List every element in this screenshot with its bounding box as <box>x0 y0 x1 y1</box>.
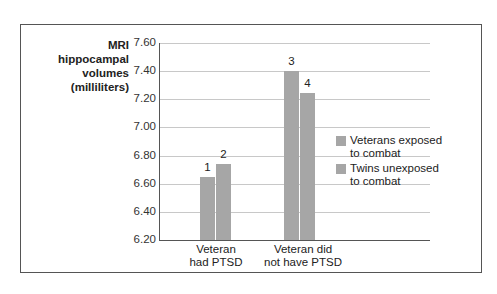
y-tick-label: 7.00 <box>128 120 156 132</box>
y-tick-label: 7.20 <box>128 92 156 104</box>
y-tick-label: 7.60 <box>128 36 156 48</box>
bar-ptsd-twin <box>216 164 231 240</box>
x-label-line: Veteran did <box>258 243 348 256</box>
y-axis-title-line: (milliliters) <box>56 80 129 94</box>
legend-line: to combat <box>350 175 490 188</box>
legend-line: to combat <box>350 147 490 160</box>
bar-label: 1 <box>200 161 215 173</box>
x-category-label: Veteran had PTSD <box>180 243 252 269</box>
bar-label: 3 <box>284 55 299 67</box>
bar-label: 2 <box>216 148 231 160</box>
y-axis-title-line: hippocampal <box>56 52 129 66</box>
y-tick-label: 6.20 <box>128 233 156 245</box>
bar-noptsd-twin <box>300 93 315 240</box>
x-label-line: Veteran <box>180 243 252 256</box>
y-axis-title: MRI hippocampal volumes (milliliters) <box>56 38 129 94</box>
y-tick-label: 6.40 <box>128 205 156 217</box>
y-tick-label: 7.40 <box>128 64 156 76</box>
legend-swatch <box>336 164 346 174</box>
y-tick-label: 6.60 <box>128 177 156 189</box>
x-category-label: Veteran did not have PTSD <box>258 243 348 269</box>
bar-label: 4 <box>300 77 315 89</box>
gridline <box>160 43 430 44</box>
legend-text: Twins unexposed to combat <box>350 162 490 188</box>
y-axis-title-line: MRI <box>56 38 129 52</box>
legend-text: Veterans exposed to combat <box>350 134 490 160</box>
x-label-line: not have PTSD <box>258 256 348 269</box>
bar-noptsd-veteran <box>284 71 299 240</box>
bar-ptsd-veteran <box>200 177 215 240</box>
legend-line: Veterans exposed <box>350 134 490 147</box>
legend-swatch <box>336 136 346 146</box>
y-axis-title-line: volumes <box>56 66 129 80</box>
y-tick-label: 6.80 <box>128 149 156 161</box>
x-label-line: had PTSD <box>180 256 252 269</box>
legend-line: Twins unexposed <box>350 162 490 175</box>
